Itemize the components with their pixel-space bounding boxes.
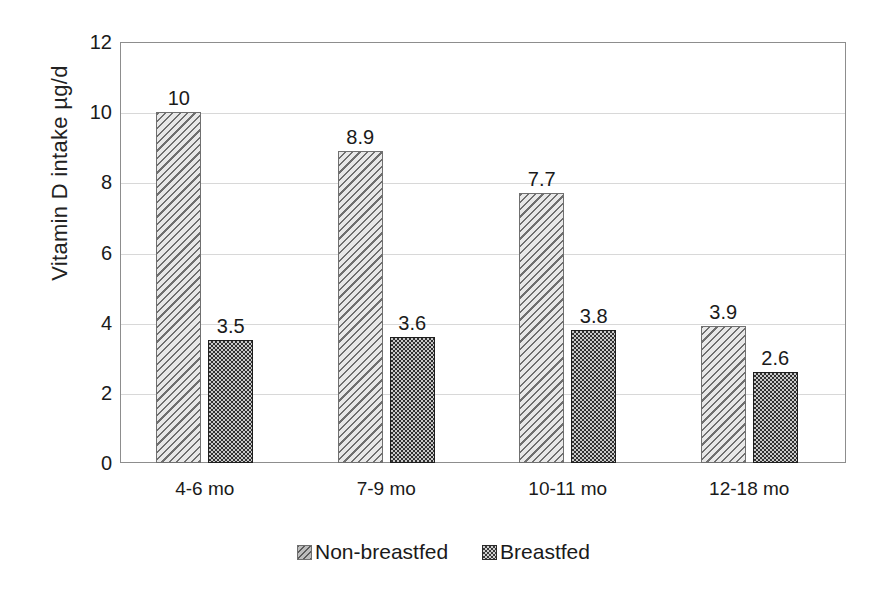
plot-area [120, 42, 846, 463]
y-tick-label: 8 [72, 171, 112, 194]
gridline [121, 183, 845, 184]
x-tick-label: 12-18 mo [709, 478, 789, 500]
x-tick-label: 4-6 mo [175, 478, 234, 500]
y-axis-tick-labels: 024681012 [66, 42, 112, 463]
y-tick-label: 4 [72, 311, 112, 334]
y-tick-label: 0 [72, 452, 112, 475]
x-tick-label: 7-9 mo [357, 478, 416, 500]
legend-item-non-breastfed[interactable]: Non-breastfed [297, 540, 448, 564]
legend-item-breastfed[interactable]: Breastfed [482, 540, 590, 564]
y-tick-label: 6 [72, 241, 112, 264]
gridline [121, 113, 845, 114]
y-tick-label: 10 [72, 101, 112, 124]
gridline [121, 254, 845, 255]
legend-swatch-icon [297, 545, 312, 560]
gridline [121, 324, 845, 325]
y-tick-label: 2 [72, 381, 112, 404]
x-tick-label: 10-11 mo [528, 478, 607, 500]
x-axis-tick-labels: 4-6 mo7-9 mo10-11 mo12-18 mo [120, 478, 846, 508]
y-tick-label: 12 [72, 31, 112, 54]
bar-chart: Vitamin D intake µg/d 024681012 103.58.9… [0, 0, 887, 598]
legend-label: Non-breastfed [315, 540, 448, 564]
legend-swatch-icon [482, 545, 497, 560]
legend-label: Breastfed [500, 540, 590, 564]
legend: Non-breastfedBreastfed [0, 540, 887, 564]
gridline [121, 394, 845, 395]
